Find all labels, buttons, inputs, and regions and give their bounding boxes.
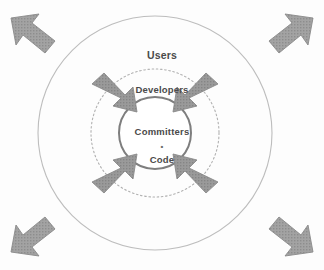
ring-label-users: Users <box>0 50 324 61</box>
ring-label-committers: Committers <box>0 127 324 137</box>
diagram-canvas: Users Developers Committers • Code <box>0 0 324 270</box>
ring-label-code: Code <box>0 155 324 165</box>
outward-arrow-top-left <box>11 14 55 53</box>
outward-arrow-bottom-right <box>269 217 313 256</box>
outward-arrow-bottom-left <box>11 217 55 256</box>
bullet-separator-icon: • <box>0 143 324 151</box>
outward-arrow-top-right <box>269 14 313 53</box>
ring-label-developers: Developers <box>0 85 324 95</box>
